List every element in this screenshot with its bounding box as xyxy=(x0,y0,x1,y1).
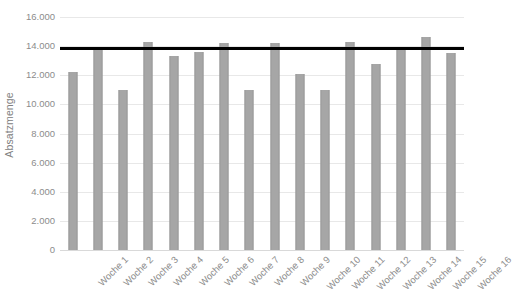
bar-slot xyxy=(338,17,363,250)
bar[interactable] xyxy=(194,52,203,250)
y-axis-title-text: Absatzmenge xyxy=(3,92,15,157)
y-axis-tick-label: 16.000 xyxy=(26,12,55,22)
reference-line xyxy=(60,47,464,50)
plot-area xyxy=(60,17,464,250)
bar-slot xyxy=(85,17,110,250)
bar[interactable] xyxy=(169,56,178,250)
bar-slot xyxy=(313,17,338,250)
y-axis-title: Absatzmenge xyxy=(0,0,18,250)
bar-slot xyxy=(111,17,136,250)
bar[interactable] xyxy=(371,64,380,250)
y-axis-tick-label: 8.000 xyxy=(31,129,55,139)
y-axis-tick-label: 4.000 xyxy=(31,187,55,197)
bar-slot xyxy=(212,17,237,250)
bar-slot xyxy=(237,17,262,250)
x-axis-tick-labels: Woche 1Woche 2Woche 3Woche 4Woche 5Woche… xyxy=(60,250,464,303)
bar-slot xyxy=(186,17,211,250)
y-axis-tick-label: 14.000 xyxy=(26,41,55,51)
bar-slot xyxy=(262,17,287,250)
bar[interactable] xyxy=(346,42,355,250)
y-axis-tick-label: 12.000 xyxy=(26,71,55,81)
y-axis-tick-labels: 02.0004.0006.0008.00010.00012.00014.0001… xyxy=(18,0,58,256)
bar[interactable] xyxy=(270,43,279,250)
bar[interactable] xyxy=(93,49,102,250)
bar[interactable] xyxy=(396,48,405,250)
bar[interactable] xyxy=(245,90,254,250)
y-axis-tick-label: 10.000 xyxy=(26,100,55,110)
bar-slot xyxy=(161,17,186,250)
bars-layer xyxy=(60,17,464,250)
bar[interactable] xyxy=(295,74,304,250)
bar[interactable] xyxy=(68,72,77,250)
bar-slot xyxy=(388,17,413,250)
bar[interactable] xyxy=(422,37,431,250)
bar-slot xyxy=(414,17,439,250)
bar-slot xyxy=(136,17,161,250)
y-axis-tick-label: 6.000 xyxy=(31,158,55,168)
bar[interactable] xyxy=(119,90,128,250)
bar-slot xyxy=(363,17,388,250)
bar[interactable] xyxy=(321,90,330,250)
bar[interactable] xyxy=(220,43,229,250)
bar[interactable] xyxy=(447,53,456,250)
bar-slot xyxy=(287,17,312,250)
y-axis-tick-label: 2.000 xyxy=(31,216,55,226)
bar[interactable] xyxy=(144,42,153,250)
bar-slot xyxy=(60,17,85,250)
y-axis-tick-label: 0 xyxy=(50,245,55,255)
bar-slot xyxy=(439,17,464,250)
